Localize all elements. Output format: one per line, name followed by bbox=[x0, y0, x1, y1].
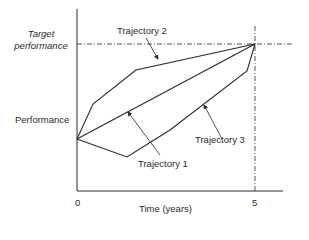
trajectory-3-label: Trajectory 3 bbox=[195, 135, 245, 145]
y-axis-label: Performance bbox=[15, 115, 69, 125]
trajectory-1-label: Trajectory 1 bbox=[138, 159, 188, 169]
trajectory-2-label: Trajectory 2 bbox=[117, 26, 167, 36]
target-label-line2: performance bbox=[12, 41, 70, 51]
trajectory-1-arrow bbox=[128, 112, 160, 155]
target-performance-label: Target performance bbox=[12, 29, 70, 50]
target-label-line1: Target bbox=[12, 29, 70, 39]
trajectory-1-line bbox=[77, 44, 255, 139]
trajectory-2-arrow bbox=[146, 38, 158, 59]
x-tick-5: 5 bbox=[252, 198, 257, 208]
x-axis-label: Time (years) bbox=[139, 204, 192, 214]
x-tick-0: 0 bbox=[75, 198, 80, 208]
